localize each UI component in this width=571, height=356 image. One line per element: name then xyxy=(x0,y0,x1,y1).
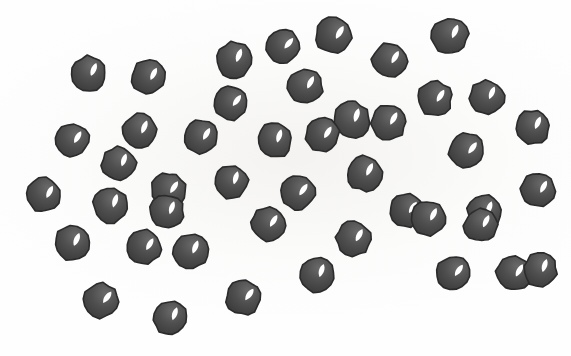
illustration-canvas xyxy=(0,0,571,356)
sphere-16 xyxy=(300,113,344,157)
sphere-graphic xyxy=(50,118,94,162)
sphere-19 xyxy=(511,105,555,149)
sphere-29 xyxy=(49,221,94,266)
sphere-graphic xyxy=(427,13,473,59)
sphere-2 xyxy=(126,55,170,99)
sphere-graphic xyxy=(465,75,509,119)
sphere-23 xyxy=(209,160,253,204)
sphere-body xyxy=(462,207,499,241)
sphere-body xyxy=(409,199,447,237)
sphere-graphic xyxy=(22,173,66,217)
sphere-graphic xyxy=(126,55,170,99)
sphere-body xyxy=(214,38,254,81)
sphere-graphic xyxy=(148,296,192,340)
sphere-39 xyxy=(518,248,562,292)
sphere-graphic xyxy=(66,51,111,96)
sphere-graphic xyxy=(179,115,223,159)
sphere-body xyxy=(81,280,120,320)
sphere-graphic xyxy=(145,190,189,234)
sphere-28 xyxy=(516,168,560,212)
sphere-41 xyxy=(148,296,192,340)
sphere-3 xyxy=(211,37,257,83)
sphere-12 xyxy=(50,118,94,162)
sphere-graphic xyxy=(209,160,253,204)
sphere-graphic xyxy=(331,216,376,261)
sphere-body xyxy=(99,144,138,182)
sphere-graphic xyxy=(367,38,412,83)
sphere-40 xyxy=(79,278,124,323)
sphere-body xyxy=(369,42,408,77)
sphere-graphic xyxy=(283,64,328,109)
sphere-body xyxy=(130,58,166,96)
sphere-body xyxy=(468,78,507,116)
sphere-graphic xyxy=(88,183,133,228)
sphere-graphic xyxy=(97,142,141,186)
sphere-body xyxy=(255,120,293,160)
sphere-43 xyxy=(97,142,141,186)
sphere-graphic xyxy=(342,151,387,196)
sphere-graphic xyxy=(431,251,475,295)
sphere-42 xyxy=(221,275,266,320)
sphere-5 xyxy=(283,64,328,109)
sphere-graphic xyxy=(459,203,503,247)
sphere-body xyxy=(429,16,471,55)
sphere-body xyxy=(70,53,106,91)
sphere-44 xyxy=(261,24,305,68)
sphere-9 xyxy=(427,13,473,59)
sphere-body xyxy=(183,119,218,156)
sphere-21 xyxy=(88,183,133,228)
sphere-body xyxy=(314,14,354,54)
sphere-graphic xyxy=(444,128,489,173)
sphere-body xyxy=(519,172,557,207)
sphere-graphic xyxy=(406,196,451,241)
sphere-body xyxy=(522,250,559,289)
sphere-body xyxy=(514,109,550,146)
sphere-graphic xyxy=(168,229,213,274)
sphere-graphic xyxy=(49,221,94,266)
sphere-body xyxy=(149,194,185,230)
sphere-body xyxy=(446,130,486,170)
sphere-body xyxy=(170,232,211,270)
sphere-45 xyxy=(145,190,189,234)
sphere-body xyxy=(224,277,262,315)
sphere-body xyxy=(304,115,342,154)
sphere-body xyxy=(264,27,303,67)
sphere-34 xyxy=(331,216,376,261)
sphere-32 xyxy=(246,202,290,246)
sphere-36 xyxy=(431,251,475,295)
sphere-15 xyxy=(252,118,297,163)
sphere-graphic xyxy=(211,37,257,83)
sphere-graphic xyxy=(511,105,555,149)
sphere-25 xyxy=(342,151,387,196)
sphere-body xyxy=(90,185,130,226)
sphere-graphic xyxy=(310,12,357,59)
sphere-18 xyxy=(444,128,489,173)
sphere-35 xyxy=(406,196,451,241)
sphere-1 xyxy=(66,51,111,96)
sphere-graphic xyxy=(366,100,411,145)
sphere-body xyxy=(285,67,324,104)
sphere-body xyxy=(25,175,62,213)
sphere-graphic xyxy=(246,202,290,246)
sphere-14 xyxy=(179,115,223,159)
sphere-body xyxy=(415,77,455,117)
sphere-17 xyxy=(366,100,411,145)
sphere-body xyxy=(151,300,188,337)
sphere-body xyxy=(333,219,371,257)
sphere-8 xyxy=(367,38,412,83)
sphere-graphic xyxy=(261,24,305,68)
sphere-body xyxy=(54,224,90,261)
sphere-graphic xyxy=(79,278,124,323)
sphere-body xyxy=(369,104,406,140)
sphere-graphic xyxy=(516,168,560,212)
sphere-6 xyxy=(310,12,357,59)
sphere-body xyxy=(433,254,472,293)
sphere-body xyxy=(249,205,288,244)
sphere-body xyxy=(297,256,336,295)
sphere-body xyxy=(213,164,251,200)
sphere-31 xyxy=(168,229,213,274)
sphere-body xyxy=(346,153,384,193)
sphere-20 xyxy=(22,173,66,217)
sphere-graphic xyxy=(300,113,344,157)
sphere-graphic xyxy=(221,275,266,320)
